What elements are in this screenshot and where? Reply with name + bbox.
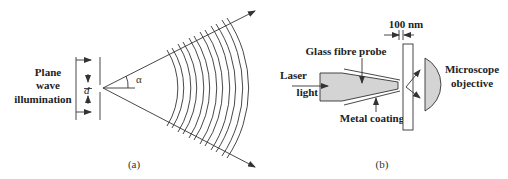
- aperture-dimension: d: [84, 74, 92, 104]
- aperture-label: d: [84, 84, 90, 96]
- gap-dimension: [384, 30, 414, 40]
- laser-label-line2: light: [297, 86, 319, 98]
- illumination-label-line3: illumination: [14, 93, 71, 105]
- caption-b: (b): [376, 158, 389, 171]
- coating-label: Metal coating: [340, 112, 405, 124]
- panel-a: Plane wave illumination d α: [14, 11, 255, 171]
- sample-slide: [403, 44, 413, 130]
- caption-a: (a): [128, 158, 141, 171]
- angle-label: α: [136, 73, 142, 85]
- laser-label-line1: Laser: [280, 69, 307, 81]
- panel-b: 100 nm Glass fibre probe Laser light Met…: [280, 18, 499, 171]
- microscope-objective: [425, 58, 441, 111]
- probe-label: Glass fibre probe: [306, 45, 387, 57]
- gap-label: 100 nm: [389, 18, 424, 30]
- illumination-label-line2: wave: [36, 79, 60, 91]
- diffraction-cone: α: [103, 11, 255, 167]
- wavefronts: [167, 18, 249, 158]
- objective-label-line2: objective: [451, 77, 493, 89]
- illumination-label-line1: Plane: [35, 66, 61, 78]
- figure: Plane wave illumination d α: [0, 0, 508, 179]
- objective-label-line1: Microscope: [445, 63, 499, 75]
